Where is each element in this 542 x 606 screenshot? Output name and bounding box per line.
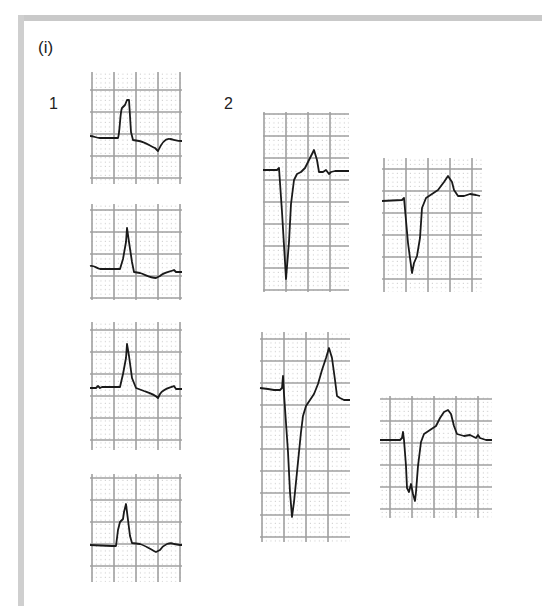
figure-part-label: (i): [38, 38, 53, 58]
ecg-grid-1a: [90, 72, 182, 184]
ecg-panel-2b: [382, 158, 482, 292]
ecg-grid-1d: [90, 474, 182, 582]
ecg-grid-1c: [90, 322, 182, 450]
ecg-panel-1a: [90, 72, 182, 184]
ecg-panel-2c: [260, 332, 350, 542]
ecg-panel-1d: [90, 474, 182, 582]
ecg-panel-2d: [380, 396, 492, 518]
ecg-grid-1b: [90, 204, 182, 300]
ecg-grid-2a: [263, 112, 349, 292]
group-label-1: 1: [49, 95, 58, 113]
ecg-grid-2b: [382, 158, 482, 292]
ecg-grid-2d: [380, 396, 492, 518]
ecg-panel-1b: [90, 204, 182, 300]
figure-frame-top-border: [18, 15, 542, 21]
group-label-2: 2: [224, 95, 233, 113]
ecg-panel-2a: [263, 112, 349, 292]
figure-frame-left-border: [18, 15, 24, 606]
ecg-panel-1c: [90, 322, 182, 450]
ecg-grid-2c: [260, 332, 350, 542]
